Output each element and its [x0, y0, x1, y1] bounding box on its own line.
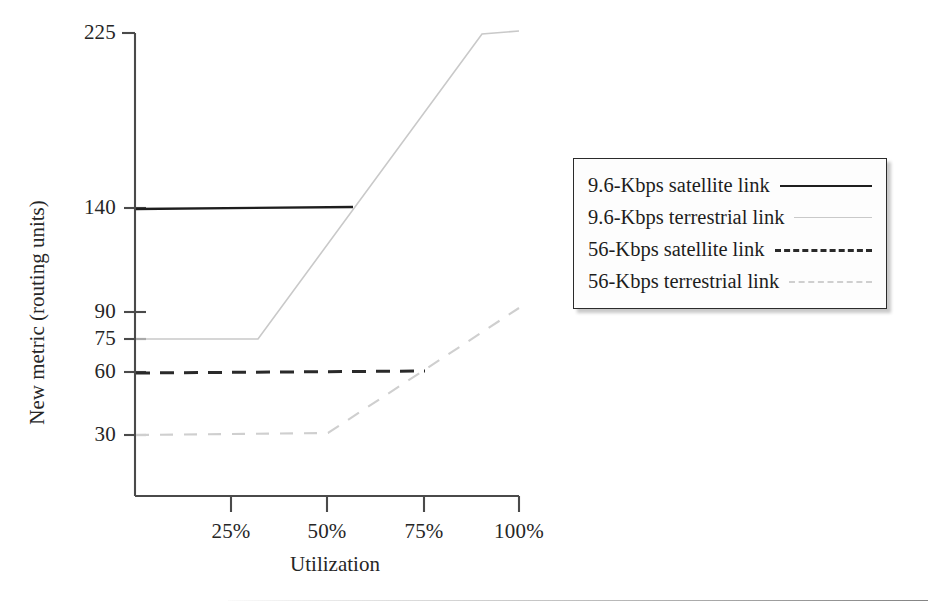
chart-figure: 225 140 90 75 60 30 25% 50% 75% 100% New…	[0, 0, 931, 609]
x-tick-label-100: 100%	[474, 521, 564, 542]
legend-label: 9.6-Kbps terrestrial link	[588, 207, 784, 228]
y-axis-title: New metric (routing units)	[25, 198, 50, 428]
y-tick-label-75: 75	[56, 328, 116, 349]
y-tick-label-90: 90	[56, 301, 116, 322]
dashed-dark-line-icon	[775, 242, 872, 256]
dashed-light-line-icon	[789, 274, 872, 288]
y-tick-label-30: 30	[56, 424, 116, 445]
x-tick-label-50: 50%	[282, 521, 372, 542]
y-tick-label-225: 225	[56, 22, 116, 43]
x-axis-ticks	[231, 496, 424, 512]
legend-item-56kbps-terrestrial: 56-Kbps terrestrial link	[588, 265, 872, 297]
solid-dark-line-icon	[780, 178, 872, 192]
series-line-96kbps-terrestrial	[136, 31, 519, 339]
legend-label: 9.6-Kbps satellite link	[588, 175, 770, 196]
x-tick-label-25: 25%	[186, 521, 276, 542]
legend-item-56kbps-satellite: 56-Kbps satellite link	[588, 233, 872, 265]
legend-item-96kbps-terrestrial: 9.6-Kbps terrestrial link	[588, 201, 872, 233]
x-axis	[135, 496, 519, 512]
y-tick-label-140: 140	[56, 197, 116, 218]
x-axis-title: Utilization	[235, 552, 435, 577]
legend-item-96kbps-satellite: 9.6-Kbps satellite link	[588, 169, 872, 201]
legend-label: 56-Kbps satellite link	[588, 239, 765, 260]
series-line-56kbps-satellite	[136, 371, 425, 373]
legend-label: 56-Kbps terrestrial link	[588, 271, 779, 292]
y-axis	[122, 33, 146, 496]
solid-light-line-icon	[794, 210, 872, 224]
series-line-96kbps-satellite	[136, 207, 353, 209]
x-tick-label-75: 75%	[379, 521, 469, 542]
chart-legend: 9.6-Kbps satellite link 9.6-Kbps terrest…	[573, 158, 887, 309]
y-tick-label-60: 60	[56, 361, 116, 382]
page-bottom-rule	[228, 600, 928, 601]
